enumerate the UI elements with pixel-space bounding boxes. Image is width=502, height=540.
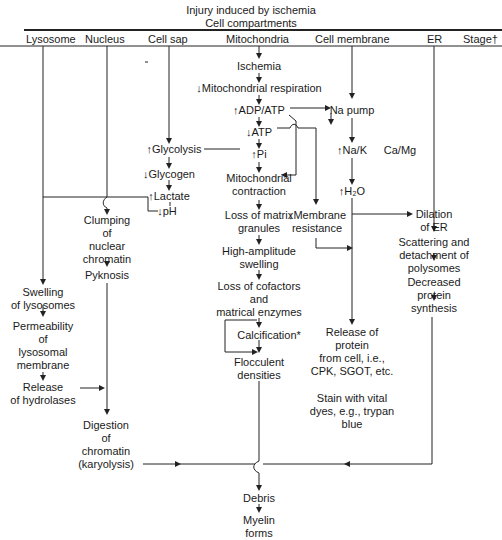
node-swelling-lysosomes: Swelling of lysosomes <box>11 286 75 312</box>
node-h2o: ↑H₂O <box>339 185 365 198</box>
node-membrane-resistance: ↓Membrane resistance <box>288 209 346 235</box>
node-ischemia: Ischemia <box>237 60 281 73</box>
node-debris: Debris <box>243 492 275 505</box>
node-mitochondrial-contraction: Mitochondrial contraction <box>226 172 291 198</box>
node-na-k: ↑Na/K <box>337 144 367 157</box>
node-permeability-lysosomal-membrane: Permeability of lysosomal membrane <box>13 320 74 372</box>
node-glycolysis: ↑Glycolysis <box>146 143 201 156</box>
node-pyknosis: Pyknosis <box>85 269 129 282</box>
node-glycogen: ↓Glycogen <box>143 168 195 181</box>
node-adp-atp: ↑ADP/ATP <box>233 104 285 117</box>
node-release-protein: Release of protein from cell, i.e., CPK,… <box>311 326 394 378</box>
node-scattering-polysomes: Scattering and detachment of polysomes <box>399 236 470 275</box>
node-lactate: ↑Lactate <box>148 190 190 203</box>
node-atp: ↓ATP <box>246 126 272 139</box>
node-release-hydrolases: Release of hydrolases <box>10 381 75 407</box>
node-high-amplitude-swelling: High-amplitude swelling <box>222 245 296 271</box>
node-calcification: Calcification* <box>237 329 301 342</box>
node-mitochondrial-respiration: ↓Mitochondrial respiration <box>196 82 321 95</box>
node-ca-mg: Ca/Mg <box>384 144 416 157</box>
node-flocculent-densities: Flocculent densities <box>234 356 284 382</box>
node-clumping-chromatin: Clumping of nuclear chromatin <box>83 214 131 266</box>
node-digestion-chromatin: Digestion of chromatin (karyolysis) <box>78 419 134 471</box>
node-pi: ↑Pi <box>251 148 266 161</box>
node-na-pump: Na pump <box>330 104 375 117</box>
node-loss-matrix-granules: Loss of matrix granules <box>225 209 293 235</box>
node-loss-cofactors: Loss of cofactors and matrical enzymes <box>216 280 302 319</box>
node-ph: ↓pH <box>157 205 177 218</box>
node-dilation-er: Dilation of ER <box>416 208 453 234</box>
node-decreased-protein-synthesis: Decreased protein synthesis <box>407 276 460 315</box>
node-stain-vital-dyes: Stain with vital dyes, e.g., trypan blue <box>310 392 394 431</box>
node-myelin-forms: Myelin forms <box>243 514 275 540</box>
